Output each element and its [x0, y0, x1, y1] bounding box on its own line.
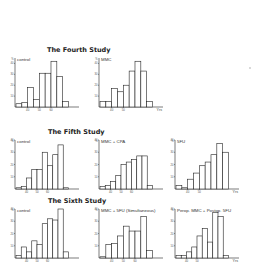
svg-text:control: control	[17, 139, 30, 144]
svg-text:10: 10	[95, 94, 98, 98]
histogram-sixth-mmc-5fu: 10203040%MMC + 5FU (Simultaneous)405060	[92, 206, 170, 264]
histogram-sixth-control: 10203040%control405060	[8, 206, 86, 264]
svg-text:10: 10	[171, 244, 174, 248]
svg-text:40: 40	[25, 190, 29, 194]
study-title-fifth: The Fifth Study	[48, 128, 105, 136]
histogram-fifth-5fu: 10203040%5FU4050Yrs	[168, 137, 246, 195]
svg-text:40: 40	[110, 259, 114, 263]
svg-text:60: 60	[130, 190, 134, 194]
svg-text:50: 50	[195, 259, 199, 263]
svg-text:10: 10	[171, 175, 174, 179]
svg-text:60: 60	[133, 259, 137, 263]
svg-text:10: 10	[95, 175, 98, 179]
svg-text:40: 40	[109, 190, 113, 194]
svg-text:20: 20	[11, 232, 14, 236]
svg-text:30: 30	[95, 72, 98, 76]
svg-text:40: 40	[186, 190, 190, 194]
svg-text:%: %	[171, 208, 174, 212]
svg-text:control: control	[17, 208, 30, 213]
svg-text:%: %	[11, 139, 14, 143]
svg-text:MMC + 5FU (Simultaneous): MMC + 5FU (Simultaneous)	[101, 208, 156, 213]
histogram-sixth-perop: 10203040%Perop. MMC + Postop. 5FU4050Yrs	[168, 206, 246, 264]
svg-text:20: 20	[95, 232, 98, 236]
svg-text:20: 20	[95, 163, 98, 167]
svg-text:10: 10	[95, 244, 98, 248]
svg-text:40: 40	[110, 108, 114, 112]
svg-text:50: 50	[122, 259, 126, 263]
svg-text:%: %	[95, 139, 98, 143]
svg-text:30: 30	[11, 219, 14, 223]
svg-text:20: 20	[11, 83, 14, 87]
svg-text:Yrs: Yrs	[233, 190, 239, 194]
svg-text:30: 30	[95, 150, 98, 154]
histogram-fourth-control: 10203040%control405060	[8, 55, 86, 113]
svg-text:40: 40	[95, 61, 98, 65]
svg-text:MMC: MMC	[101, 57, 112, 62]
histogram-fifth-control: 10203040%control405060	[8, 137, 86, 195]
svg-text:40: 40	[185, 259, 189, 263]
svg-text:%: %	[95, 57, 98, 61]
svg-text:MMC + CPA: MMC + CPA	[101, 139, 125, 144]
svg-text:%: %	[171, 139, 174, 143]
svg-text:%: %	[11, 57, 14, 61]
scan-artifact	[249, 67, 251, 69]
svg-text:40: 40	[11, 61, 14, 65]
svg-text:20: 20	[171, 163, 174, 167]
svg-text:5FU: 5FU	[177, 139, 185, 144]
svg-text:10: 10	[11, 175, 14, 179]
svg-text:control: control	[17, 57, 30, 62]
histogram-fourth-mmc: 10203040%MMC4050Yrs	[92, 55, 170, 113]
svg-text:Yrs: Yrs	[157, 108, 163, 112]
svg-text:60: 60	[46, 259, 50, 263]
study-title-sixth: The Sixth Study	[48, 197, 106, 205]
svg-text:50: 50	[35, 190, 39, 194]
svg-text:20: 20	[95, 83, 98, 87]
svg-text:50: 50	[38, 108, 42, 112]
svg-text:Yrs: Yrs	[233, 259, 239, 263]
svg-text:40: 40	[25, 259, 29, 263]
svg-text:60: 60	[46, 190, 50, 194]
svg-text:30: 30	[171, 219, 174, 223]
svg-text:50: 50	[122, 108, 126, 112]
svg-text:30: 30	[11, 150, 14, 154]
svg-text:%: %	[11, 208, 14, 212]
svg-text:30: 30	[171, 150, 174, 154]
svg-text:50: 50	[119, 190, 123, 194]
histogram-fifth-mmc-cpa: 10203040%MMC + CPA405060	[92, 137, 170, 195]
svg-text:%: %	[95, 208, 98, 212]
svg-text:30: 30	[11, 72, 14, 76]
svg-text:10: 10	[11, 244, 14, 248]
svg-text:30: 30	[95, 219, 98, 223]
svg-text:60: 60	[49, 108, 53, 112]
study-title-fourth: The Fourth Study	[47, 46, 111, 54]
svg-text:50: 50	[198, 190, 202, 194]
svg-text:40: 40	[26, 108, 30, 112]
svg-text:20: 20	[171, 232, 174, 236]
svg-text:20: 20	[11, 163, 14, 167]
svg-text:Perop. MMC + Postop. 5FU: Perop. MMC + Postop. 5FU	[177, 208, 231, 213]
svg-text:50: 50	[35, 259, 39, 263]
svg-text:10: 10	[11, 94, 14, 98]
